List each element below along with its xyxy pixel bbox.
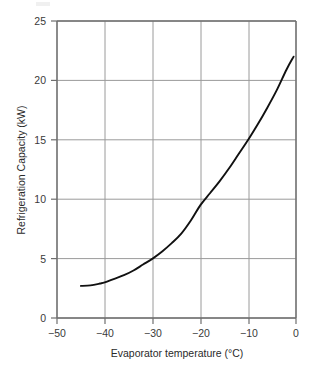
y-tick-label-15: 15 [34,134,46,146]
x-tick-label-minus30: −30 [144,327,162,339]
x-tick-label-0: 0 [293,327,299,339]
x-tick-label-minus40: −40 [96,327,114,339]
x-tick-label-minus50: −50 [48,327,66,339]
plot-frame [57,21,296,318]
y-tick-label-0: 0 [40,312,46,324]
y-tick-label-5: 5 [40,253,46,265]
x-gridlines [57,21,296,318]
x-tick-label-minus10: −10 [240,327,258,339]
x-axis-title: Evaporator temperature (°C) [111,347,244,359]
y-tick-label-20: 20 [34,74,46,86]
chart-figure: 25 20 15 10 5 0 −50 −40 −30 −20 −10 0 Ev… [0,0,316,372]
y-tick-label-10: 10 [34,193,46,205]
data-series-line [81,57,294,286]
y-gridlines [57,21,296,318]
x-tick-label-minus20: −20 [192,327,210,339]
y-axis-title: Refrigeration Capacity (kW) [15,106,27,235]
y-axis-ticks [51,21,57,318]
x-axis-ticks [57,318,296,324]
y-tick-label-25: 25 [34,15,46,27]
chart-plot-area: 25 20 15 10 5 0 −50 −40 −30 −20 −10 0 Ev… [0,0,316,372]
